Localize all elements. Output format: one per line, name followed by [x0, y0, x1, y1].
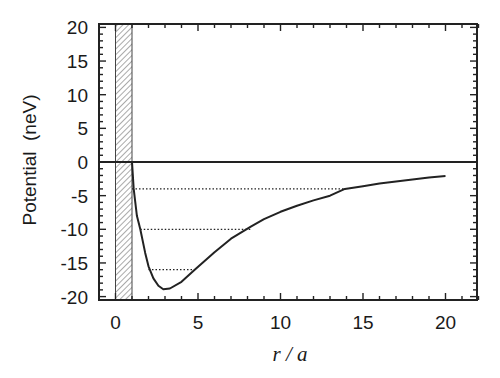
x-tick-label: 15	[352, 312, 373, 333]
y-tick-label: 10	[67, 85, 88, 106]
y-tick-label: 15	[67, 51, 88, 72]
curve-path	[132, 162, 446, 289]
x-tick-label: 5	[193, 312, 204, 333]
y-tick-label: -10	[61, 219, 88, 240]
y-tick-label: -15	[61, 253, 88, 274]
y-tick-label: 0	[77, 152, 88, 173]
y-tick-label: 5	[77, 118, 88, 139]
potential-chart: 05101520 20151050-5-10-15-20 Potential (…	[0, 0, 500, 378]
potential-curve	[132, 162, 446, 289]
y-tick-label: -5	[71, 186, 88, 207]
y-tick-labels: 20151050-5-10-15-20	[61, 17, 88, 307]
x-tick-label: 10	[270, 312, 291, 333]
y-axis-label: Potential (neV)	[19, 95, 40, 226]
x-tick-label: 20	[435, 312, 456, 333]
y-tick-label: 20	[67, 17, 88, 38]
y-tick-label: -20	[61, 287, 88, 308]
x-tick-labels: 05101520	[110, 312, 456, 333]
x-axis-label: r / a	[272, 342, 307, 366]
x-tick-label: 0	[110, 312, 121, 333]
